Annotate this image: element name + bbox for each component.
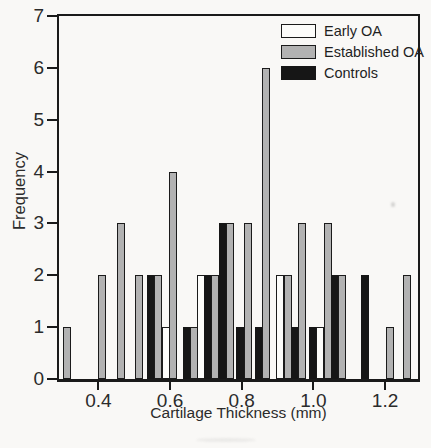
bar xyxy=(361,275,369,379)
bar xyxy=(226,223,234,379)
y-tick-label: 7 xyxy=(18,5,44,27)
x-tick-label: 0.8 xyxy=(220,390,264,412)
x-tick xyxy=(169,381,171,390)
bar xyxy=(98,275,106,379)
y-tick-label: 2 xyxy=(18,264,44,286)
y-tick-label: 4 xyxy=(18,161,44,183)
bar xyxy=(298,223,306,379)
x-tick xyxy=(97,381,99,390)
scan-artifact xyxy=(391,202,395,207)
legend-item: Early OA xyxy=(281,21,424,41)
bar xyxy=(236,327,244,379)
bar xyxy=(169,172,177,379)
bar xyxy=(386,327,394,379)
y-tick xyxy=(47,171,57,173)
legend-item: Established OA xyxy=(281,42,424,62)
bar xyxy=(244,223,252,379)
x-tick-label: 0.4 xyxy=(76,390,120,412)
x-tick-label: 0.6 xyxy=(148,390,192,412)
y-tick xyxy=(47,222,57,224)
legend-swatch xyxy=(281,66,316,80)
x-tick xyxy=(241,381,243,390)
y-tick-label: 5 xyxy=(18,109,44,131)
y-tick-label: 0 xyxy=(18,368,44,390)
bar xyxy=(135,275,143,379)
bar xyxy=(262,68,270,379)
y-tick-label: 1 xyxy=(18,316,44,338)
x-tick-label: 1.0 xyxy=(291,390,335,412)
legend-label: Controls xyxy=(324,65,378,81)
y-tick-label: 3 xyxy=(18,212,44,234)
legend: Early OAEstablished OAControls xyxy=(281,21,424,84)
y-tick xyxy=(47,15,57,17)
bar xyxy=(117,223,125,379)
bar xyxy=(63,327,71,379)
x-tick xyxy=(384,381,386,390)
x-tick-label: 1.2 xyxy=(363,390,407,412)
legend-label: Established OA xyxy=(324,44,424,60)
legend-label: Early OA xyxy=(324,23,382,39)
figure: Frequency Cartilage Thickness (mm) Early… xyxy=(0,0,431,448)
bar xyxy=(403,275,411,379)
bar xyxy=(338,275,346,379)
legend-swatch xyxy=(281,24,316,38)
y-tick xyxy=(47,67,57,69)
scan-artifact xyxy=(196,438,256,442)
y-tick-label: 6 xyxy=(18,57,44,79)
y-tick xyxy=(47,274,57,276)
legend-swatch xyxy=(281,45,316,59)
x-tick xyxy=(312,381,314,390)
y-tick xyxy=(47,378,57,380)
y-tick xyxy=(47,326,57,328)
legend-item: Controls xyxy=(281,63,424,83)
y-tick xyxy=(47,119,57,121)
